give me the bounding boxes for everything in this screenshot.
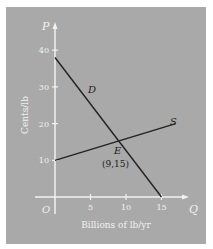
axes [35,22,189,214]
y-axis-letter: P [41,20,50,33]
y-tick-label: 40 [39,46,49,55]
x-tick-label: 5 [88,203,93,212]
y-tick-label: 10 [39,156,49,165]
y-axis-arrow-icon [53,22,58,29]
y-axis-title: Cents/lb [20,96,30,134]
curve-d [55,58,162,197]
demand-label: D [87,84,96,95]
series-lines [55,58,176,197]
x-axis-letter: Q [189,203,198,216]
origin-label: O [42,204,50,215]
equilibrium-label: E [113,145,122,156]
x-axis-title: Billions of lb/yr [81,220,151,230]
x-tick-label: 15 [156,203,166,212]
supply-demand-chart: 10203040 51015 P Q O Billions of lb/yr C… [0,0,213,249]
y-tick-label: 30 [39,83,49,92]
equilibrium-coords: (9,15) [102,159,129,169]
supply-label: S [170,116,177,127]
y-tick-label: 20 [39,120,49,129]
x-axis-arrow-icon [182,195,189,200]
x-tick-label: 10 [121,203,131,212]
